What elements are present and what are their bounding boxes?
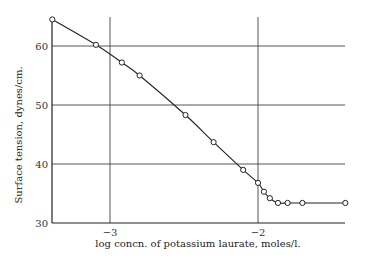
x-tick-label: −2 (251, 227, 266, 238)
data-point-marker (267, 196, 272, 201)
x-axis-label: log concn. of potassium laurate, moles/l… (95, 238, 300, 249)
data-point-marker (261, 189, 266, 194)
surface-tension-chart: 30405060−3−2 log concn. of potassium lau… (0, 0, 365, 261)
data-point-marker (241, 167, 246, 172)
data-point-marker (93, 42, 98, 47)
x-tick-label: −3 (103, 227, 118, 238)
data-point-marker (183, 112, 188, 117)
data-point-marker (119, 60, 124, 65)
data-point-marker (275, 200, 280, 205)
data-point-marker (137, 73, 142, 78)
data-point-marker (300, 200, 305, 205)
y-tick-label: 60 (35, 41, 48, 52)
data-point-marker (211, 140, 216, 145)
y-tick-label: 30 (35, 218, 48, 229)
data-point-marker (50, 17, 55, 22)
y-tick-label: 40 (35, 159, 48, 170)
data-point-marker (285, 200, 290, 205)
data-markers (50, 17, 348, 206)
tick-labels: 30405060−3−2 (35, 41, 265, 239)
data-point-marker (343, 200, 348, 205)
data-point-marker (255, 180, 260, 185)
y-tick-label: 50 (35, 100, 48, 111)
y-axis-label: Surface tension, dynes/cm. (13, 66, 24, 203)
